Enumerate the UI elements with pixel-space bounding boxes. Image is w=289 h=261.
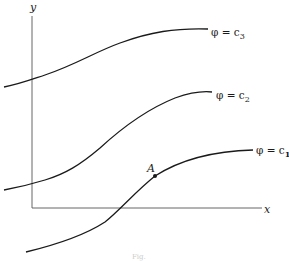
point-a-label: A: [146, 162, 155, 175]
curve-c1: [26, 150, 253, 252]
level-curves-diagram: y x φ = c3 φ = c2 φ = c1 A Fig.: [0, 0, 289, 261]
curve-c3: [4, 29, 208, 87]
curve-c2-label: φ = c2: [216, 89, 250, 104]
curve-c1-label: φ = c1: [256, 144, 289, 159]
x-axis-label: x: [264, 203, 271, 216]
curve-c2: [4, 92, 212, 190]
y-axis-label: y: [29, 1, 37, 14]
figure-caption: Fig.: [132, 253, 146, 261]
curve-c3-label: φ = c3: [211, 26, 245, 41]
